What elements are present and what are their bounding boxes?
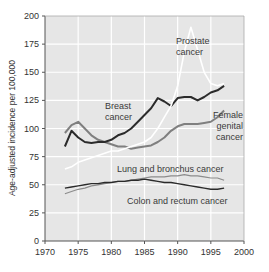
y-tick-label: 200 xyxy=(24,11,39,21)
y-tick-label: 150 xyxy=(24,67,39,77)
annotation-prostate-cancer: Prostate xyxy=(176,36,210,46)
y-tick-label: 0 xyxy=(34,236,39,246)
x-tick-label: 1990 xyxy=(168,247,188,257)
y-tick-label: 125 xyxy=(24,95,39,105)
y-tick-label: 100 xyxy=(24,124,39,134)
annotation-female-genital-cancer: genital xyxy=(216,121,243,131)
y-tick-label: 25 xyxy=(29,208,39,218)
annotation-breast-cancer: Breast xyxy=(105,101,132,111)
x-tick-label: 1970 xyxy=(35,247,55,257)
x-tick-label: 1980 xyxy=(101,247,121,257)
incidence-line-chart: 0255075100125150175200197019751980198519… xyxy=(0,0,269,272)
y-tick-label: 175 xyxy=(24,39,39,49)
y-axis-label: Age-adjusted incidence per 100,000 xyxy=(7,60,17,196)
y-tick-label: 50 xyxy=(29,180,39,190)
x-tick-label: 1975 xyxy=(68,247,88,257)
x-tick-label: 2000 xyxy=(234,247,254,257)
annotation-colon-and-rectum-cancer: Colon and rectum cancer xyxy=(127,196,228,206)
y-tick-label: 75 xyxy=(29,152,39,162)
annotation-lung-and-bronchus-cancer: Lung and bronchus cancer xyxy=(117,164,224,174)
annotation-female-genital-cancer: cancer xyxy=(216,132,243,142)
annotation-female-genital-cancer: Female xyxy=(213,110,243,120)
x-tick-label: 1995 xyxy=(201,247,221,257)
annotation-breast-cancer: cancer xyxy=(105,112,132,122)
x-tick-label: 1985 xyxy=(134,247,154,257)
annotation-prostate-cancer: cancer xyxy=(176,47,203,57)
